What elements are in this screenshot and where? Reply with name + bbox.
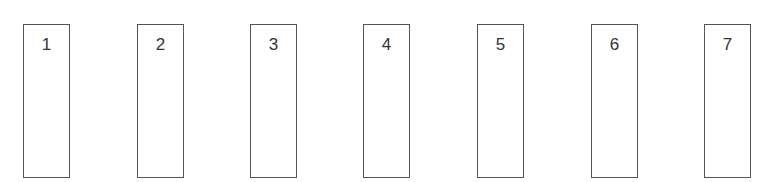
box-label: 5 [478,35,523,55]
box-label: 3 [251,35,296,55]
box-2: 2 [137,24,184,178]
box-1: 1 [23,24,70,178]
box-label: 1 [24,35,69,55]
box-5: 5 [477,24,524,178]
box-3: 3 [250,24,297,178]
box-label: 7 [705,35,750,55]
box-label: 2 [138,35,183,55]
box-label: 6 [592,35,637,55]
box-7: 7 [704,24,751,178]
box-6: 6 [591,24,638,178]
box-label: 4 [364,35,409,55]
box-4: 4 [363,24,410,178]
